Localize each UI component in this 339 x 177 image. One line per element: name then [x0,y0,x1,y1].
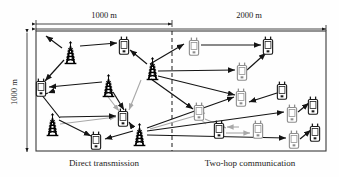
user-device[interactable] [36,79,45,97]
user-device[interactable] [236,89,245,107]
figure-canvas: 1000 m 2000 m 1000 m [0,0,339,177]
user-device[interactable] [277,82,286,100]
label-1000m-left: 1000 m [9,79,19,105]
top-dimension-lines [36,20,326,31]
user-device[interactable] [308,97,317,115]
network-diagram-svg: 1000 m 2000 m 1000 m [0,0,339,177]
user-device[interactable] [118,109,127,127]
user-device[interactable] [263,37,272,55]
label-2000m-top: 2000 m [236,10,262,20]
user-device[interactable] [253,121,262,139]
user-device[interactable] [189,38,198,56]
user-device[interactable] [214,121,223,139]
user-device[interactable] [91,132,100,150]
user-device[interactable] [237,63,246,81]
caption-two-hop-communication: Two-hop communication [205,158,296,168]
user-device[interactable] [119,37,128,55]
caption-direct-transmission: Direct transmission [69,158,140,168]
user-device[interactable] [287,105,296,123]
label-1000m-top: 1000 m [91,10,117,20]
user-device[interactable] [310,124,319,142]
user-device[interactable] [194,103,203,121]
user-device[interactable] [289,131,298,149]
